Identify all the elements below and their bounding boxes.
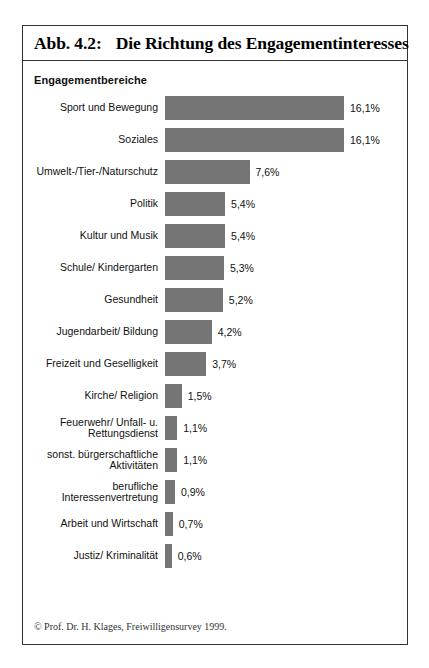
- bar-row: Justiz/ Kriminalität0,6%: [23, 544, 407, 568]
- bar-row: Feuerwehr/ Unfall- u.Rettungsdienst1,1%: [23, 416, 407, 440]
- bar-category-label: Kirche/ Religion: [23, 390, 165, 402]
- bar-track: 0,7%: [165, 512, 407, 536]
- bar-category-label: Arbeit und Wirtschaft: [23, 518, 165, 530]
- bar-track: 0,9%: [165, 480, 407, 504]
- bar-fill: [165, 448, 177, 472]
- bar-fill: [165, 480, 175, 504]
- bar-track: 0,6%: [165, 544, 407, 568]
- bar-category-label-line1: berufliche: [112, 480, 158, 492]
- bar-value-label: 1,1%: [177, 422, 207, 434]
- bar-fill: [165, 512, 173, 536]
- bar-track: 7,6%: [165, 160, 407, 184]
- bar-category-label-line1: Kirche/ Religion: [84, 389, 158, 401]
- bar-track: 1,1%: [165, 448, 407, 472]
- bar-category-label-line1: Soziales: [118, 133, 158, 145]
- figure-title: Abb. 4.2: Die Richtung des Engagementint…: [23, 26, 407, 61]
- bar-fill: [165, 544, 172, 568]
- bar-value-label: 5,4%: [225, 230, 255, 242]
- bar-category-label-line1: Justiz/ Kriminalität: [73, 549, 158, 561]
- bar-category-label: Schule/ Kindergarten: [23, 262, 165, 274]
- bar-row: Sport und Bewegung16,1%: [23, 96, 407, 120]
- bar-row: Politik5,4%: [23, 192, 407, 216]
- bar-fill: [165, 96, 344, 120]
- bar-fill: [165, 320, 212, 344]
- figure-title-text: Die Richtung des Engagementinteresses: [116, 33, 409, 54]
- bar-category-label-line1: Kultur und Musik: [80, 229, 158, 241]
- bar-track: 3,7%: [165, 352, 407, 376]
- bar-category-label: Umwelt-/Tier-/Naturschutz: [23, 166, 165, 178]
- bar-category-label-line1: Politik: [130, 197, 158, 209]
- bar-row: Umwelt-/Tier-/Naturschutz7,6%: [23, 160, 407, 184]
- bar-category-label: Justiz/ Kriminalität: [23, 550, 165, 562]
- bar-category-label: Jugendarbeit/ Bildung: [23, 326, 165, 338]
- bar-category-label: beruflicheInteressenvertretung: [23, 481, 165, 504]
- bar-fill: [165, 256, 224, 280]
- bar-track: 5,4%: [165, 224, 407, 248]
- bar-category-label-line1: Feuerwehr/ Unfall- u.: [60, 416, 158, 428]
- bar-category-label: Soziales: [23, 134, 165, 146]
- bar-fill: [165, 352, 206, 376]
- bar-fill: [165, 224, 225, 248]
- bar-track: 1,5%: [165, 384, 407, 408]
- bar-value-label: 1,1%: [177, 454, 207, 466]
- bar-track: 5,4%: [165, 192, 407, 216]
- bar-fill: [165, 128, 344, 152]
- bar-category-label: Sport und Bewegung: [23, 102, 165, 114]
- bar-value-label: 3,7%: [206, 358, 236, 370]
- bar-category-label: Kultur und Musik: [23, 230, 165, 242]
- bar-row: beruflicheInteressenvertretung0,9%: [23, 480, 407, 504]
- bar-row: Kirche/ Religion1,5%: [23, 384, 407, 408]
- bar-category-label-line1: Jugendarbeit/ Bildung: [56, 325, 158, 337]
- bar-row: sonst. bürgerschaftlicheAktivitäten1,1%: [23, 448, 407, 472]
- bar-category-label: Politik: [23, 198, 165, 210]
- bar-value-label: 5,3%: [224, 262, 254, 274]
- bar-value-label: 1,5%: [182, 390, 212, 402]
- bar-row: Jugendarbeit/ Bildung4,2%: [23, 320, 407, 344]
- bar-row: Arbeit und Wirtschaft0,7%: [23, 512, 407, 536]
- category-axis-heading: Engagementbereiche: [34, 74, 147, 86]
- bar-value-label: 0,7%: [173, 518, 203, 530]
- bar-category-label-line1: Umwelt-/Tier-/Naturschutz: [36, 165, 158, 177]
- bar-fill: [165, 192, 225, 216]
- bar-category-label: Feuerwehr/ Unfall- u.Rettungsdienst: [23, 417, 165, 440]
- bar-category-label-line1: Gesundheit: [104, 293, 158, 305]
- bar-category-label-line1: sonst. bürgerschaftliche: [47, 448, 158, 460]
- bar-value-label: 0,6%: [172, 550, 202, 562]
- bar-track: 5,2%: [165, 288, 407, 312]
- bar-value-label: 7,6%: [250, 166, 280, 178]
- bar-category-label-line1: Schule/ Kindergarten: [60, 261, 158, 273]
- bar-category-label-line2: Interessenvertretung: [23, 492, 158, 504]
- bar-category-label: Gesundheit: [23, 294, 165, 306]
- bar-fill: [165, 288, 223, 312]
- bar-row: Kultur und Musik5,4%: [23, 224, 407, 248]
- bar-value-label: 0,9%: [175, 486, 205, 498]
- figure-credit: © Prof. Dr. H. Klages, Freiwilligensurve…: [34, 621, 227, 632]
- bar-row: Freizeit und Geselligkeit3,7%: [23, 352, 407, 376]
- bar-value-label: 4,2%: [212, 326, 242, 338]
- bar-row: Soziales16,1%: [23, 128, 407, 152]
- bar-value-label: 5,2%: [223, 294, 253, 306]
- bar-track: 4,2%: [165, 320, 407, 344]
- bar-category-label-line2: Rettungsdienst: [23, 428, 158, 440]
- bar-category-label-line1: Sport und Bewegung: [60, 101, 158, 113]
- bar-category-label: sonst. bürgerschaftlicheAktivitäten: [23, 449, 165, 472]
- bar-track: 1,1%: [165, 416, 407, 440]
- bar-category-label-line1: Arbeit und Wirtschaft: [61, 517, 158, 529]
- bar-category-label-line2: Aktivitäten: [23, 460, 158, 472]
- bar-track: 5,3%: [165, 256, 407, 280]
- bar-value-label: 16,1%: [344, 102, 380, 114]
- figure-container: Abb. 4.2: Die Richtung des Engagementint…: [22, 25, 408, 645]
- bar-value-label: 5,4%: [225, 198, 255, 210]
- bar-fill: [165, 384, 182, 408]
- bar-category-label: Freizeit und Geselligkeit: [23, 358, 165, 370]
- bar-chart-plot: Sport und Bewegung16,1%Soziales16,1%Umwe…: [23, 96, 407, 598]
- bar-fill: [165, 416, 177, 440]
- bar-category-label-line1: Freizeit und Geselligkeit: [46, 357, 158, 369]
- bar-value-label: 16,1%: [344, 134, 380, 146]
- bar-row: Schule/ Kindergarten5,3%: [23, 256, 407, 280]
- bar-row: Gesundheit5,2%: [23, 288, 407, 312]
- figure-number: Abb. 4.2:: [34, 33, 102, 54]
- bar-track: 16,1%: [165, 128, 407, 152]
- bar-track: 16,1%: [165, 96, 407, 120]
- bar-fill: [165, 160, 250, 184]
